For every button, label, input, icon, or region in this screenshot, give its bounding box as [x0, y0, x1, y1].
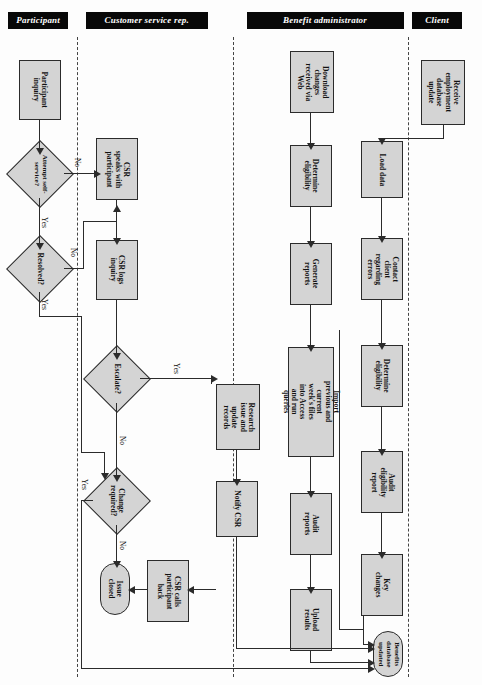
edge-change-yes-h [81, 500, 93, 501]
edge-load-to-contact-arrow [378, 236, 386, 243]
edge-import-to-auditreports-arrow [307, 491, 315, 498]
edge-notify-to-db-h [236, 648, 372, 649]
lane-label-benefit-administrator: Benefit administrator [247, 12, 404, 29]
lane-separator-benefit-csr [233, 37, 234, 677]
node-csr-speaks-with-participant-label: CSR speaks with participant [104, 150, 129, 188]
node-research-issue-and-update-records[interactable]: Research issue and update records [216, 384, 260, 450]
node-determine-eligibility-top[interactable]: Determine eligibility [361, 345, 403, 407]
node-issue-closed-label: Issue closed [107, 576, 124, 602]
edge-speaks-to-logs-arrow [113, 238, 121, 245]
node-determine-eligibility-top-label: Determine eligibility [374, 357, 391, 395]
node-load-data-label: Load data [378, 151, 386, 189]
node-csr-calls-participant-back-label: CSR calls participant back [155, 572, 180, 610]
edge-change-no-arrow [113, 561, 121, 568]
edge-contact-to-determine-arrow [378, 343, 386, 350]
edge-escalate-yes-h [140, 378, 212, 379]
node-determine-eligibility-bottom-label: Determine eligibility [303, 157, 320, 195]
edge-change-yes-v [81, 500, 82, 669]
edge-inquiry-to-attempt [39, 120, 40, 150]
node-notify-csr[interactable]: Notify CSR [216, 481, 258, 537]
node-resolved[interactable]: Resolved? [16, 245, 64, 293]
node-determine-eligibility-bottom[interactable]: Determine eligibility [290, 145, 332, 207]
edge-label-attempt-no: No [73, 158, 82, 167]
edge-keyloop-h [339, 629, 364, 630]
node-benefits-database-updated-label: Benefits database updated [376, 641, 399, 667]
edge-logs-to-escalate [116, 300, 117, 355]
edge-label-escalate-no: No [118, 436, 127, 445]
node-key-changes[interactable]: Key changes [361, 554, 403, 616]
edge-change-yes-arrow [368, 665, 375, 673]
edge-research-to-notify [236, 450, 237, 481]
node-load-data[interactable]: Load data [361, 141, 403, 198]
node-notify-csr-label: Notify CSR [233, 490, 241, 528]
lane-label-benefit-administrator-text: Benefit administrator [284, 16, 368, 26]
lane-separator-client-benefit [408, 37, 409, 677]
edge-notify-to-db-v [236, 537, 237, 649]
edge-label-change-yes: Yes [79, 480, 90, 489]
edge-download-to-determine2 [310, 113, 311, 145]
node-attempt-self-service[interactable]: Attempt self-service? [16, 150, 64, 198]
node-audit-eligibility-report[interactable]: Audit eligibility report [361, 451, 403, 513]
node-issue-closed[interactable]: Issue closed [100, 563, 130, 615]
edge-label-escalate-yes: Yes [171, 364, 182, 373]
node-contact-client-regarding-errors-label: Contact client regarding errors [365, 250, 399, 288]
node-participant-inquiry[interactable]: Participant inquiry [19, 60, 61, 120]
node-csr-logs-inquiry[interactable]: CSR logs inquiry [96, 240, 138, 300]
edge-key-to-db-v [363, 616, 364, 645]
node-csr-calls-participant-back[interactable]: CSR calls participant back [147, 560, 189, 622]
edge-csrcalls-to-issue-arrow [128, 586, 135, 594]
edge-resolved-no-h2 [83, 221, 117, 222]
edge-inquiry-to-attempt-arrow [36, 148, 44, 155]
lane-label-client: Client [412, 12, 462, 29]
node-download-changes-received-via-web-label: Download changes received via Web [295, 62, 329, 102]
edge-resolved-no-h1 [64, 268, 84, 269]
edge-audit-to-key [381, 513, 382, 554]
node-escalate[interactable]: Escalate? [93, 355, 141, 403]
node-upload-results[interactable]: Upload results [290, 589, 332, 651]
edge-escalate-yes-arrow [211, 375, 218, 383]
lane-separator-csr-participant [77, 37, 78, 677]
node-change-required[interactable]: Change required? [93, 477, 141, 525]
edge-notify-to-csrcalls-arrow [187, 586, 194, 594]
edge-research-to-notify-arrow [233, 479, 241, 486]
edge-upload-to-db-h [310, 662, 372, 663]
edge-download-to-determine2-arrow [307, 143, 315, 150]
edge-import-to-auditreports [310, 457, 311, 493]
node-audit-reports[interactable]: Audit reports [290, 493, 332, 555]
node-benefits-database-updated[interactable]: Benefits database updated [373, 631, 403, 677]
node-participant-inquiry-label: Participant inquiry [32, 71, 49, 109]
edge-resolved-yes-h2 [81, 452, 105, 453]
edge-resolved-no-v [83, 222, 84, 269]
edge-label-resolved-no: No [69, 248, 78, 257]
edge-attempt-no-arrow [94, 170, 101, 178]
edge-resolved-no-arrow [113, 205, 121, 212]
edge-contact-to-determine [381, 300, 382, 345]
edge-determine-to-audit [381, 407, 382, 451]
edge-receive-to-load-arrow [378, 138, 386, 145]
lane-label-participant-text: Participant [16, 16, 60, 26]
node-generate-reports[interactable]: Generate reports [290, 243, 332, 305]
node-receive-employment-database-update[interactable]: Receive employment database update [421, 60, 465, 125]
node-csr-logs-inquiry-label: CSR logs inquiry [109, 251, 126, 289]
edge-determine-to-audit-arrow [378, 449, 386, 456]
node-generate-reports-label: Generate reports [303, 255, 320, 293]
edge-logs-to-escalate-arrow [113, 353, 121, 360]
node-import-files-run-queries-label: Import previous and current week's files… [282, 381, 341, 423]
edge-determine2-to-generate-arrow [307, 241, 315, 248]
edge-auditreports-to-upload-arrow [307, 587, 315, 594]
edge-change-no [116, 525, 117, 563]
edge-escalate-no-arrow [113, 475, 121, 482]
lane-label-customer-service-rep: Customer service rep. [86, 12, 208, 29]
edge-attempt-yes-arrow [36, 243, 44, 250]
edge-generate-to-import-arrow [307, 345, 315, 352]
edge-change-yes-top [81, 668, 372, 669]
node-csr-speaks-with-participant[interactable]: CSR speaks with participant [96, 138, 138, 200]
node-resolved-label: Resolved? [36, 247, 44, 291]
node-import-files-run-queries[interactable]: Import previous and current week's files… [288, 347, 334, 457]
edge-label-attempt-yes: Yes [39, 218, 50, 227]
edge-attempt-no-h [64, 173, 96, 174]
node-contact-client-regarding-errors[interactable]: Contact client regarding errors [361, 238, 403, 300]
node-download-changes-received-via-web[interactable]: Download changes received via Web [290, 51, 334, 113]
edge-notify-to-db-arrow [368, 645, 375, 653]
node-escalate-label: Escalate? [113, 357, 121, 401]
